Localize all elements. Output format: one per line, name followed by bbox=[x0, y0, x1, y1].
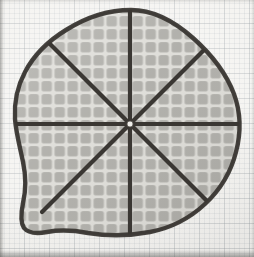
center-point bbox=[127, 121, 133, 127]
drawing-canvas bbox=[0, 0, 254, 257]
blob-figure bbox=[0, 0, 254, 257]
blob-vector-drawing bbox=[0, 0, 254, 257]
